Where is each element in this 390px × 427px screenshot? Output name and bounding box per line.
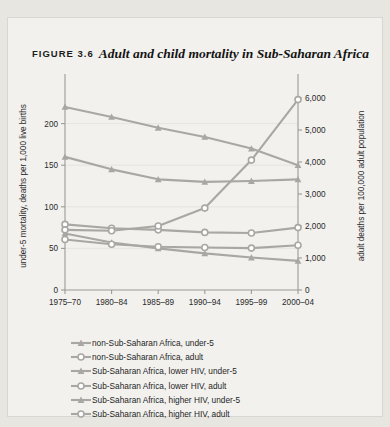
data-point-marker [202, 205, 208, 211]
y-tick-label-left: 100 [44, 203, 58, 212]
legend-item-label: non-Sub-Saharan Africa, under-5 [92, 338, 214, 348]
data-point-marker [248, 245, 254, 251]
series-line-3 [65, 224, 298, 233]
y-tick-label-right: 0 [305, 286, 310, 295]
x-tick-label: 1975–70 [49, 298, 81, 307]
data-point-marker [202, 229, 208, 235]
data-point-marker [295, 97, 301, 103]
series-line-2 [65, 107, 298, 165]
triangle-marker-icon [70, 394, 92, 406]
data-point-marker [295, 225, 301, 231]
data-point-marker [109, 241, 115, 247]
y-tick-label-left: 50 [49, 244, 59, 253]
circle-marker-icon [70, 351, 92, 363]
data-point-marker [248, 230, 254, 236]
y-axis-title-right: adult deaths per 100,000 adult populatio… [357, 110, 366, 261]
y-tick-label-right: 3,000 [305, 190, 326, 199]
legend-item[interactable]: non-Sub-Saharan Africa, under-5 [70, 336, 370, 350]
legend-item[interactable]: Sub-Saharan Africa, lower HIV, adult [70, 379, 370, 393]
data-point-marker [109, 228, 115, 234]
data-point-marker [62, 236, 68, 242]
data-point-marker [155, 244, 161, 250]
legend-item-label: Sub-Saharan Africa, lower HIV, adult [92, 381, 226, 391]
figure-page: FIGURE 3.6Adult and child mortality in S… [0, 0, 390, 427]
x-tick-label: 1985–89 [142, 298, 174, 307]
chart-plot-area: 05010015020001,0002,0003,0004,0005,0006,… [8, 68, 382, 313]
chart-legend: non-Sub-Saharan Africa, under-5non-Sub-S… [70, 336, 370, 421]
x-tick-label: 2000–04 [282, 298, 314, 307]
y-tick-label-right: 2,000 [305, 222, 326, 231]
x-tick-label: 1990–94 [189, 298, 221, 307]
y-axis-title-left: under-5 mortality, deaths per 1,000 live… [19, 104, 28, 268]
circle-marker-icon [70, 408, 92, 420]
y-tick-label-right: 5,000 [305, 126, 326, 135]
figure-number: FIGURE 3.6 [32, 48, 94, 59]
triangle-marker-icon [70, 365, 92, 377]
legend-item-label: Sub-Saharan Africa, higher HIV, under-5 [92, 395, 240, 405]
triangle-marker-icon [70, 337, 92, 349]
legend-item-label: Sub-Saharan Africa, higher HIV, adult [92, 409, 230, 419]
legend-item[interactable]: Sub-Saharan Africa, higher HIV, under-5 [70, 393, 370, 407]
y-tick-label-right: 1,000 [305, 254, 326, 263]
y-tick-label-left: 0 [53, 286, 58, 295]
y-tick-label-right: 6,000 [305, 94, 326, 103]
series-line-4 [65, 157, 298, 182]
figure-title: FIGURE 3.6Adult and child mortality in S… [32, 44, 372, 64]
figure-caption: Adult and child mortality in Sub-Saharan… [99, 46, 369, 61]
data-point-marker [248, 157, 254, 163]
legend-item[interactable]: Sub-Saharan Africa, higher HIV, adult [70, 407, 370, 421]
mortality-line-chart: 05010015020001,0002,0003,0004,0005,0006,… [8, 68, 382, 313]
data-point-marker [155, 223, 161, 229]
figure-card: FIGURE 3.6Adult and child mortality in S… [8, 18, 382, 416]
legend-item[interactable]: Sub-Saharan Africa, lower HIV, under-5 [70, 364, 370, 378]
data-point-marker [62, 227, 68, 233]
legend-item[interactable]: non-Sub-Saharan Africa, adult [70, 350, 370, 364]
circle-marker-icon [70, 380, 92, 392]
y-tick-label-right: 4,000 [305, 158, 326, 167]
legend-item-label: Sub-Saharan Africa, lower HIV, under-5 [92, 366, 237, 376]
y-tick-label-left: 150 [44, 161, 58, 170]
x-tick-label: 1980–84 [96, 298, 128, 307]
data-point-marker [202, 244, 208, 250]
data-point-marker [295, 242, 301, 248]
legend-item-label: non-Sub-Saharan Africa, adult [92, 352, 203, 362]
x-tick-label: 1995–99 [235, 298, 267, 307]
y-tick-label-left: 200 [44, 120, 58, 129]
